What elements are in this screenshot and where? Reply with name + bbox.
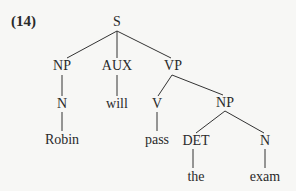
node-n-object: N (260, 134, 270, 148)
leaf-exam: exam (250, 170, 280, 184)
edge-vp-np (172, 75, 223, 95)
edge-np-n2 (225, 111, 264, 133)
tree-edges (0, 0, 296, 191)
leaf-robin: Robin (45, 133, 79, 147)
leaf-pass: pass (145, 133, 169, 147)
edge-vp-v (158, 75, 172, 96)
edge-s-vp (117, 31, 171, 58)
edge-np-det (196, 111, 225, 133)
node-np: NP (53, 59, 71, 73)
leaf-will: will (106, 97, 128, 111)
node-det: DET (182, 134, 209, 148)
node-n: N (57, 97, 67, 111)
leaf-the: the (187, 170, 204, 184)
node-v: V (152, 97, 162, 111)
edge-s-np (67, 31, 117, 58)
node-aux: AUX (102, 59, 132, 73)
node-s: S (113, 15, 121, 29)
node-vp: VP (164, 59, 182, 73)
node-np-object: NP (216, 96, 234, 110)
